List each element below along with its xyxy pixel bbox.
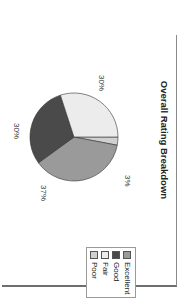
chart-title: Overall Rating Breakdown	[159, 35, 170, 245]
legend-label-excellent: Excellent	[123, 262, 132, 294]
legend-item-excellent: Excellent	[122, 251, 133, 294]
legend-label-good: Good	[112, 262, 121, 282]
legend-item-good: Good	[111, 251, 122, 294]
chart-container: Overall Rating Breakdown 37% 30% 30% 3% …	[0, 35, 177, 285]
swatch-good	[113, 251, 121, 259]
swatch-excellent	[124, 251, 132, 259]
legend-item-fair: Fair	[100, 251, 111, 294]
swatch-poor	[91, 251, 99, 259]
pie-svg	[24, 87, 124, 187]
legend-label-poor: Poor	[90, 262, 99, 279]
label-good: 30%	[12, 123, 21, 139]
label-excellent: 37%	[39, 185, 48, 201]
chart-legend: Excellent Good Fair Poor	[86, 247, 136, 298]
chart-frame: Overall Rating Breakdown 37% 30% 30% 3% …	[2, 35, 177, 287]
label-poor: 3%	[123, 175, 132, 187]
label-fair: 30%	[97, 75, 106, 91]
swatch-fair	[102, 251, 110, 259]
legend-label-fair: Fair	[101, 262, 110, 276]
legend-item-poor: Poor	[89, 251, 100, 294]
pie-chart	[24, 87, 124, 187]
